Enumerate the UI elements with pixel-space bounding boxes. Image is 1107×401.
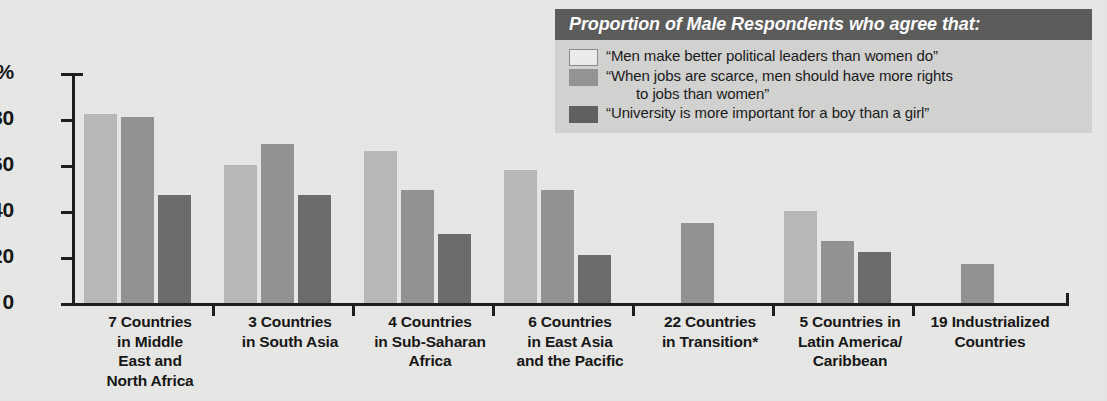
category-label-line: East and xyxy=(65,351,235,371)
legend-body: “Men make better political leaders than … xyxy=(555,40,1092,133)
bar xyxy=(578,255,611,303)
category-label-line: Caribbean xyxy=(765,351,935,371)
legend-item: “Men make better political leaders than … xyxy=(569,47,1082,66)
y-axis-top-cap-tick xyxy=(72,73,83,76)
bar xyxy=(84,114,117,303)
category-label-line: Countries xyxy=(905,332,1075,352)
legend: Proportion of Male Respondents who agree… xyxy=(555,9,1092,133)
y-axis-tick-label: 40 xyxy=(0,198,14,222)
legend-swatch-icon xyxy=(569,106,598,123)
y-axis-tick-label: 0 xyxy=(0,290,14,314)
bar xyxy=(784,211,817,303)
bar xyxy=(298,195,331,303)
y-axis-tick xyxy=(61,73,72,76)
y-axis-tick xyxy=(61,211,72,214)
y-axis-tick-label: 80 xyxy=(0,106,14,130)
y-axis-tick xyxy=(61,257,72,260)
bar xyxy=(504,170,537,303)
legend-item-label: “When jobs are scarce, men should have m… xyxy=(606,67,953,103)
bar xyxy=(961,264,994,303)
legend-item: “When jobs are scarce, men should have m… xyxy=(569,67,1082,103)
bar xyxy=(821,241,854,303)
legend-item-label-continuation: to jobs than women” xyxy=(606,85,953,103)
category-label-line: North Africa xyxy=(65,371,235,391)
y-axis-tick-label: 20 xyxy=(0,244,14,268)
category-label-line: and the Pacific xyxy=(485,351,655,371)
legend-header: Proportion of Male Respondents who agree… xyxy=(555,9,1092,40)
bar-chart: 100%806040200 7 Countriesin MiddleEast a… xyxy=(0,0,1107,401)
legend-swatch-icon xyxy=(569,69,598,86)
legend-swatch-icon xyxy=(569,49,598,66)
legend-title: Proportion of Male Respondents who agree… xyxy=(569,14,980,35)
category-label-line: 19 Industrialized xyxy=(905,312,1075,332)
bar xyxy=(681,223,714,304)
bar xyxy=(364,151,397,303)
bar xyxy=(401,190,434,303)
y-axis-tick xyxy=(61,165,72,168)
legend-item-label: “University is more important for a boy … xyxy=(606,104,929,122)
legend-item-label: “Men make better political leaders than … xyxy=(606,47,938,65)
legend-item: “University is more important for a boy … xyxy=(569,104,1082,123)
x-axis-line xyxy=(72,303,1069,306)
y-axis-line xyxy=(72,73,75,306)
y-axis-tick xyxy=(61,303,72,306)
bar xyxy=(858,252,891,303)
y-axis-tick-label: 100% xyxy=(0,60,14,84)
bar xyxy=(541,190,574,303)
y-axis-tick xyxy=(61,119,72,122)
x-axis-category-label: 19 IndustrializedCountries xyxy=(905,312,1075,351)
bar xyxy=(261,144,294,303)
x-axis-right-end-tick xyxy=(1066,293,1069,306)
bar xyxy=(438,234,471,303)
bar xyxy=(121,117,154,303)
y-axis-tick-label: 60 xyxy=(0,152,14,176)
bar xyxy=(158,195,191,303)
bar xyxy=(224,165,257,303)
